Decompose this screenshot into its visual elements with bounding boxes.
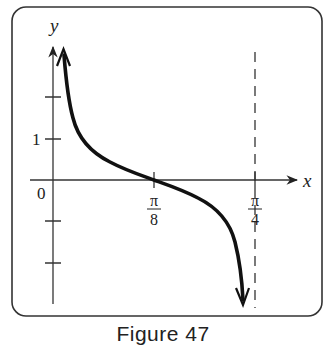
pi-numerator: π	[251, 192, 259, 209]
denominator-8: 8	[150, 211, 158, 228]
figure-frame	[12, 7, 322, 316]
x-tick-label-pi-over-8: π 8	[147, 192, 161, 228]
y-axis-label: y	[48, 15, 59, 36]
figure-caption: Figure 47	[0, 322, 326, 346]
origin-label: 0	[37, 184, 46, 203]
x-axis-label: x	[302, 170, 312, 191]
pi-numerator: π	[150, 192, 158, 209]
y-tick-label-1: 1	[32, 130, 41, 149]
denominator-4: 4	[251, 211, 259, 228]
